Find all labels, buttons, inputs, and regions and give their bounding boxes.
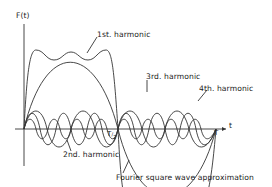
x-axis-arrow-icon	[222, 127, 226, 131]
leader-approx	[123, 160, 129, 173]
tick-period: T	[214, 130, 218, 137]
label-second-harmonic: 2nd. harmonic	[63, 151, 119, 159]
label-square-wave: Fourier square wave approximation	[116, 174, 254, 182]
square-wave-approx-curve	[24, 50, 216, 187]
tick-half-period: T/2	[107, 131, 116, 138]
label-third-harmonic: 3rd. harmonic	[146, 73, 200, 81]
label-fourth-harmonic: 4th. harmonic	[199, 85, 253, 93]
x-axis-label: t	[229, 122, 232, 130]
label-first-harmonic: 1st. harmonic	[97, 31, 151, 39]
leader-first	[87, 37, 97, 53]
fourier-diagram	[0, 0, 272, 187]
y-axis-label: F(t)	[16, 12, 30, 20]
